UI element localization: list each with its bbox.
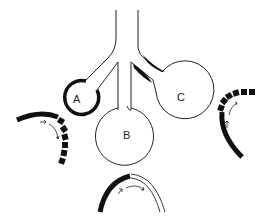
label-c: C: [177, 91, 185, 103]
arrow-icon: [40, 120, 59, 139]
label-b: B: [123, 129, 130, 141]
arc-inset-right: [217, 89, 255, 157]
arrow-icon: [225, 102, 237, 128]
arrow-icon: [118, 186, 144, 194]
label-a: A: [73, 93, 81, 105]
alveolus-c: C: [156, 61, 214, 119]
arc-inset-bottom: [100, 174, 165, 212]
lung-unit-diagram: A B C: [0, 0, 269, 224]
alveolus-a: A: [65, 80, 99, 114]
alveolus-b: B: [95, 108, 153, 165]
arc-inset-left: [17, 114, 69, 165]
airway-obstruction: [133, 55, 165, 83]
